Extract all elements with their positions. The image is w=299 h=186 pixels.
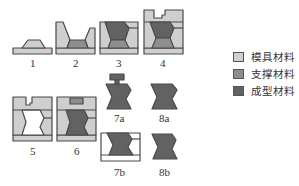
figure-4 xyxy=(144,10,183,54)
support-swatch-icon xyxy=(233,69,244,79)
legend: 模具材料 支撑材料 成型材料 xyxy=(233,48,295,99)
figure-7a xyxy=(106,74,131,109)
figure-2 xyxy=(56,22,95,54)
figure-label-1: 1 xyxy=(30,57,36,69)
figure-label-4: 4 xyxy=(160,57,166,69)
legend-item-build: 成型材料 xyxy=(233,82,295,99)
figure-label-7b: 7b xyxy=(114,166,126,178)
figure-label-2: 2 xyxy=(73,57,79,69)
build-swatch-icon xyxy=(233,86,244,96)
figure-1 xyxy=(13,40,52,54)
figure-8b xyxy=(152,134,177,159)
legend-label: 模具材料 xyxy=(251,49,295,64)
figure-3 xyxy=(100,22,138,54)
figure-8a xyxy=(151,84,177,109)
legend-item-mold: 模具材料 xyxy=(233,48,295,65)
legend-label: 支撑材料 xyxy=(251,66,295,81)
figure-6 xyxy=(57,97,96,141)
legend-item-support: 支撑材料 xyxy=(233,65,295,82)
legend-label: 成型材料 xyxy=(251,83,295,98)
figure-5 xyxy=(13,97,52,141)
figure-label-5: 5 xyxy=(30,145,36,157)
mold-swatch-icon xyxy=(233,52,244,62)
figure-label-7a: 7a xyxy=(114,112,125,124)
figure-label-6: 6 xyxy=(74,145,80,157)
figure-label-3: 3 xyxy=(116,57,122,69)
figure-label-8a: 8a xyxy=(159,112,170,124)
figure-7b xyxy=(101,133,140,161)
figure-label-8b: 8b xyxy=(159,166,171,178)
